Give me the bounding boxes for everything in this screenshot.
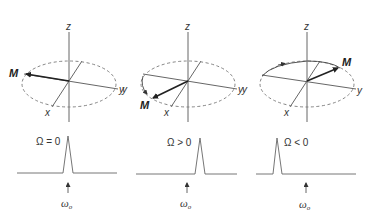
nmr-rotating-frame-diagram: z y x M Ω = 0 ωo z y y x M Ω > 0 ωo <box>0 0 373 216</box>
condition-label: Ω = 0 <box>36 136 61 147</box>
z-label: z <box>303 21 309 32</box>
x-label: x <box>44 107 51 118</box>
omega-label: ωo <box>61 197 73 211</box>
x-label: x <box>283 107 290 118</box>
m-label: M <box>9 67 19 79</box>
neg-y-label: y <box>241 84 248 95</box>
magnetization-vector <box>26 74 69 81</box>
z-label: z <box>184 21 190 32</box>
m-label: M <box>342 56 352 68</box>
condition-label: Ω < 0 <box>284 137 309 148</box>
axes-3d <box>262 32 356 122</box>
neg-y-label: y <box>121 84 128 95</box>
panel-positive-offset: z y y x M Ω > 0 ωo <box>121 21 244 211</box>
y-axis <box>143 74 237 89</box>
spectrum: Ω = 0 ωo <box>17 136 117 211</box>
omega-label: ωo <box>299 198 311 212</box>
panel-on-resonance: z y x M Ω = 0 ωo <box>9 21 125 211</box>
spectrum: Ω > 0 ωo <box>136 137 237 211</box>
axes-3d <box>143 32 237 122</box>
x-axis <box>171 61 201 107</box>
spectrum-peak <box>17 136 117 173</box>
rotation-arc <box>262 61 340 76</box>
y-label: y <box>356 85 363 96</box>
condition-label: Ω > 0 <box>167 137 192 148</box>
rotation-arrow <box>142 76 147 94</box>
panel-negative-offset: z y y x M Ω < 0 ωo <box>241 21 363 212</box>
spectrum: Ω < 0 ωo <box>256 137 356 212</box>
omega-label: ωo <box>180 197 192 211</box>
x-axis <box>52 61 82 107</box>
x-label: x <box>163 107 170 118</box>
axes-3d <box>24 32 118 122</box>
z-label: z <box>65 21 71 32</box>
x-axis <box>290 61 320 107</box>
m-label: M <box>140 99 150 111</box>
